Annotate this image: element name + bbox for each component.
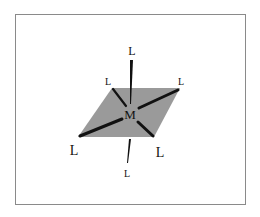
center-atom-label: M <box>124 107 136 122</box>
bond-axial-bottom <box>127 139 131 163</box>
ligand-label-axial-top: L <box>128 44 135 58</box>
ligand-label-front-right: L <box>156 145 165 160</box>
ligand-label-back-right: L <box>178 76 184 87</box>
ligand-label-back-left: L <box>105 76 111 87</box>
ligand-label-front-left: L <box>70 143 79 158</box>
ligand-label-axial-bottom: L <box>124 168 130 179</box>
octahedral-diagram: M L L L L L L <box>0 0 260 217</box>
